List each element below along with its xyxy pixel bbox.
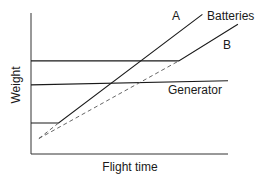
- label-B: B: [223, 38, 231, 52]
- series-line-a: [31, 14, 202, 123]
- label-generator: Generator: [168, 83, 222, 97]
- weight-vs-flight-time-diagram: A B Batteries Generator Flight time Weig…: [0, 0, 269, 179]
- series-line-b: [39, 61, 179, 139]
- x-axis-label: Flight time: [102, 160, 158, 174]
- y-axis-label: Weight: [9, 66, 23, 104]
- series-line-a-extension: [39, 123, 59, 139]
- label-batteries: Batteries: [207, 9, 254, 23]
- label-A: A: [172, 9, 180, 23]
- series-line-batteries: [31, 24, 238, 61]
